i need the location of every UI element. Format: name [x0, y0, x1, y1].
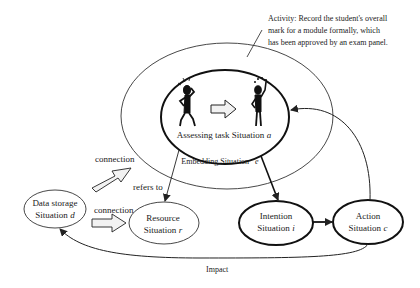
connection-label-bottom: connection — [94, 205, 134, 215]
refers-to-arrow — [165, 150, 179, 201]
idea-person-icon — [252, 77, 267, 126]
data-storage-situation-ellipse — [24, 190, 86, 228]
connection-arrow-bottom — [92, 214, 126, 232]
action-label-line2: Situation c — [349, 223, 388, 233]
data-storage-label-line2: Situation d — [35, 210, 75, 220]
intention-label-line2: Situation i — [257, 223, 295, 233]
intention-label-line1: Intention — [260, 211, 293, 221]
resource-label-line2: Situation r — [144, 225, 183, 235]
situation-diagram: Activity: Record the student's overall m… — [0, 0, 420, 288]
activity-line-1: Activity: Record the student's overall — [268, 14, 388, 23]
assessing-task-label: Assessing task Situation a — [177, 130, 272, 140]
impact-label: Impact — [206, 265, 229, 274]
activity-line-2: mark for a module formally, which — [268, 26, 380, 35]
refers-to-label: refers to — [133, 182, 163, 192]
action-to-assessing-arrow — [291, 108, 370, 200]
impact-arrow — [60, 229, 368, 258]
assessing-to-intention-arrow — [261, 156, 278, 200]
resource-label-line1: Resource — [146, 213, 180, 223]
action-label-line1: Action — [356, 211, 381, 221]
data-storage-label-line1: Data storage — [32, 198, 77, 208]
frustrated-person-icon — [178, 77, 195, 126]
activity-note: Activity: Record the student's overall m… — [247, 14, 388, 57]
resource-situation-ellipse — [129, 202, 199, 244]
action-situation-ellipse — [333, 200, 403, 244]
activity-line-3: has been approved by an exam panel. — [268, 38, 388, 47]
connection-label-top: connection — [95, 154, 135, 164]
connection-arrow-top — [92, 168, 131, 192]
transition-block-arrow — [211, 100, 236, 118]
activity-pointer-line — [247, 30, 262, 57]
